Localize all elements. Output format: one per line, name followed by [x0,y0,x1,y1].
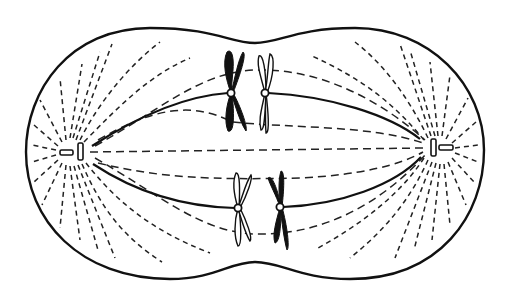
right-centrosome [431,139,453,156]
lower-chromosome-pair [234,171,288,250]
centriole-horizontal [439,145,453,150]
upper-chromosome-pair [225,51,273,133]
kinetochore [276,203,283,210]
centriole-horizontal [60,150,73,155]
centriole-vertical [78,143,83,160]
polar-microtubules [90,70,425,234]
kinetochore [261,89,268,96]
kinetochore [234,204,241,211]
kinetochore [227,89,234,96]
spindle-diagram: Mitotic spindle with paired chromosomes … [0,0,508,290]
left-centrosome [60,143,83,160]
kinetochore-microtubules [92,93,421,208]
centriole-vertical [431,139,436,156]
